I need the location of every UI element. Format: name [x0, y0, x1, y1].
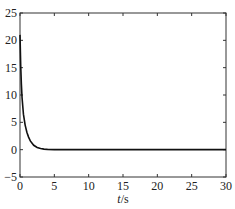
y-tick-label: 5 — [11, 115, 17, 129]
x-tick-label: 25 — [186, 179, 198, 193]
x-tick-label: 15 — [117, 179, 129, 193]
y-tick-label: 25 — [5, 6, 17, 20]
x-tick-label: 30 — [220, 179, 232, 193]
y-tick-label: 0 — [11, 143, 17, 157]
x-tick-label: 20 — [151, 179, 163, 193]
x-tick-label: 0 — [17, 179, 23, 193]
y-tick-label: 15 — [5, 61, 17, 75]
y-tick-label: −5 — [4, 170, 17, 184]
y-tick-label: 10 — [5, 88, 17, 102]
x-axis-label: t/s — [117, 192, 129, 206]
x-tick-label: 10 — [83, 179, 95, 193]
x-tick-label: 5 — [51, 179, 57, 193]
plot-area — [20, 13, 226, 177]
y-tick-label: 20 — [5, 33, 17, 47]
line-chart: 051015202530 −50510152025 t/s — [0, 0, 235, 209]
